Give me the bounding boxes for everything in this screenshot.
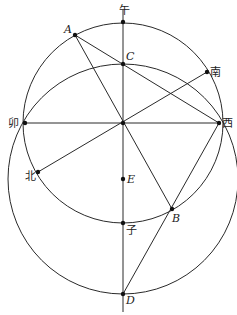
- point-D: [121, 292, 125, 296]
- label-xi: 西: [222, 117, 233, 130]
- label-mao: 卯: [8, 117, 19, 130]
- label-zi: 子: [126, 224, 137, 237]
- label-A: A: [63, 23, 72, 36]
- label-bei: 北: [25, 170, 36, 183]
- point-mao: [23, 121, 27, 125]
- geometry-diagram: 午AC南卯西北EB子D: [0, 0, 237, 315]
- point-A: [73, 33, 77, 37]
- label-B: B: [171, 212, 180, 225]
- point-xi: [217, 121, 221, 125]
- segments: [25, 10, 219, 312]
- point-B: [170, 207, 174, 211]
- point-O: [121, 121, 125, 125]
- point-C: [121, 62, 125, 66]
- label-C: C: [126, 50, 135, 63]
- point-zi: [121, 221, 125, 225]
- points: [23, 20, 221, 296]
- label-E: E: [126, 173, 135, 186]
- point-bei: [36, 170, 40, 174]
- point-wu: [121, 20, 125, 24]
- label-nan: 南: [210, 66, 221, 79]
- line-A-xi: [75, 35, 219, 123]
- point-nan: [205, 70, 209, 74]
- label-D: D: [125, 294, 135, 307]
- point-E: [121, 177, 125, 181]
- labels: 午AC南卯西北EB子D: [8, 4, 233, 307]
- label-wu: 午: [119, 4, 130, 17]
